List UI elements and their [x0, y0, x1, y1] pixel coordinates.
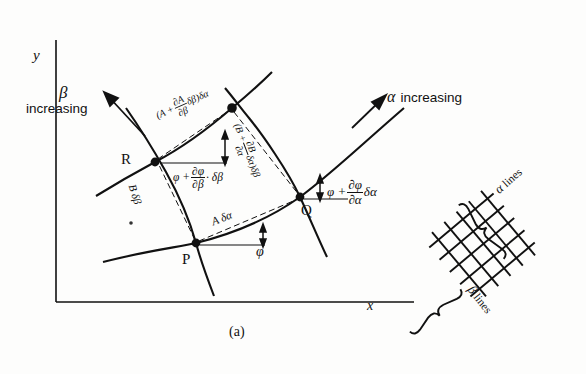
alpha-increasing-word: increasing: [400, 90, 462, 105]
stray-dot: [129, 221, 133, 225]
angle-label-P: φ: [256, 245, 264, 259]
angle-label-R-fraction: ∂φ∂β: [191, 165, 205, 192]
figure-caption: (a): [229, 325, 245, 339]
beta-increasing-label: β increasing: [26, 84, 88, 116]
vertex-label-Q: Q: [301, 203, 312, 218]
alpha-increasing-label: αincreasing: [387, 89, 462, 105]
alpha-increasing-arrow: [352, 95, 386, 128]
edge-label-top-suffix: δβ)δα: [185, 88, 210, 107]
angle-label-Q: φ +∂φ∂αδα: [327, 178, 377, 208]
angle-arrow-Q: [317, 175, 323, 201]
beta-increasing-arrow: [104, 92, 145, 136]
beta-increasing-word: increasing: [26, 102, 88, 116]
y-axis-label: y: [33, 48, 40, 63]
angle-label-Q-numerator: ∂φ: [347, 178, 363, 194]
inset-grid: [423, 186, 541, 304]
vertex-label-P: P: [182, 252, 190, 267]
figure-page: y x (a) β increasing αincreasing R P Q (…: [0, 0, 586, 374]
angle-label-R-denominator: ∂β: [191, 178, 205, 191]
beta-symbol: β: [59, 84, 88, 101]
vertex-node-Q: [296, 193, 305, 202]
angle-label-Q-suffix: δα: [364, 184, 377, 199]
edge-label-top-prefix: (A +: [154, 103, 175, 121]
vertex-node-R: [151, 158, 160, 167]
angle-label-R: φ +∂φ∂β· δβ: [173, 165, 223, 192]
angle-label-R-suffix: · δβ: [206, 171, 223, 183]
angle-label-Q-denominator: ∂α: [347, 193, 363, 208]
beta-lines-brace: [410, 289, 465, 337]
edge-label-right-suffix: δα)δβ: [244, 153, 262, 178]
coordinate-curve-Q-top-extended: [225, 88, 327, 257]
angle-label-R-numerator: ∂φ: [191, 165, 205, 179]
vertex-label-R: R: [121, 152, 131, 167]
angle-label-R-prefix: φ +: [173, 171, 190, 183]
angle-label-Q-prefix: φ +: [327, 184, 346, 199]
angle-label-Q-fraction: ∂φ∂α: [347, 178, 363, 208]
alpha-symbol: α: [387, 88, 395, 105]
vertex-node-P: [192, 239, 201, 248]
x-axis-label: x: [367, 299, 373, 313]
vertex-node-top: [227, 103, 237, 113]
angle-arrow-R: [222, 131, 228, 165]
